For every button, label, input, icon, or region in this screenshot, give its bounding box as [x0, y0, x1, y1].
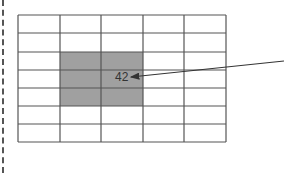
- grid-diagram: 42: [0, 0, 284, 173]
- value-label: 42: [115, 70, 129, 84]
- pointer-arrow: [131, 61, 284, 77]
